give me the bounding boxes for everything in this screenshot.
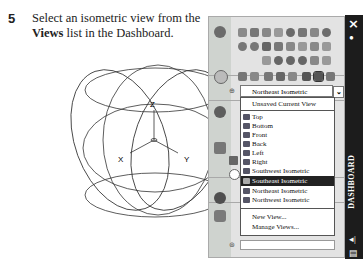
left-view-icon bbox=[243, 150, 250, 156]
dashboard-title-bar[interactable]: × ● DASHBOARD ◂| ▤ bbox=[345, 15, 363, 259]
loft-icon[interactable] bbox=[298, 42, 307, 51]
front-view-icon bbox=[243, 132, 250, 138]
zoom-icon[interactable] bbox=[250, 72, 259, 81]
presspull-icon[interactable] bbox=[310, 42, 319, 51]
menu-icon[interactable]: ▤ bbox=[349, 248, 359, 257]
views-dropdown-value: Northeast Isometric bbox=[252, 88, 307, 96]
orbit-icon[interactable] bbox=[264, 72, 273, 81]
revolve-icon[interactable] bbox=[274, 42, 283, 51]
flatshot-icon[interactable] bbox=[310, 56, 319, 65]
back-view-icon bbox=[243, 141, 250, 147]
cylinder-icon[interactable] bbox=[298, 28, 307, 37]
list-item-new-view[interactable]: New View... bbox=[241, 212, 334, 222]
views-icon[interactable] bbox=[314, 72, 323, 81]
render-panel-icon[interactable] bbox=[214, 210, 226, 222]
y-axis-label: Y bbox=[184, 155, 190, 164]
slice-icon[interactable] bbox=[262, 56, 271, 65]
union-icon[interactable] bbox=[238, 42, 247, 51]
se-iso-icon bbox=[243, 178, 250, 184]
3d-navigate-panel-icon[interactable] bbox=[214, 70, 228, 84]
views-list: Unsaved Current View Top Bottom Front Ba… bbox=[240, 97, 335, 236]
clock-icon[interactable] bbox=[229, 169, 240, 180]
close-icon[interactable]: × bbox=[348, 16, 359, 31]
thicken-icon[interactable] bbox=[286, 56, 295, 65]
autohide-icon[interactable]: ◂| bbox=[349, 234, 359, 243]
top-view-icon bbox=[243, 114, 250, 120]
walk-icon[interactable] bbox=[276, 72, 285, 81]
wireframe-sphere-drawing: Z X Y bbox=[0, 40, 210, 265]
grid-icon[interactable] bbox=[229, 156, 238, 165]
step-number: 5 bbox=[8, 11, 15, 26]
interfere-icon[interactable] bbox=[298, 56, 307, 65]
cone-solid-icon[interactable] bbox=[310, 28, 319, 37]
lights-panel-icon[interactable] bbox=[214, 106, 226, 118]
bottom-view-icon bbox=[243, 123, 250, 129]
list-item-manage-views[interactable]: Manage Views... bbox=[241, 222, 334, 232]
dashboard-title: DASHBOARD bbox=[347, 155, 361, 209]
pyramid-icon[interactable] bbox=[274, 28, 283, 37]
section-icon[interactable] bbox=[274, 56, 283, 65]
convert-icon[interactable] bbox=[322, 56, 331, 65]
sweep-icon[interactable] bbox=[286, 42, 295, 51]
ne-iso-icon bbox=[243, 188, 250, 194]
render-slider[interactable] bbox=[240, 240, 335, 250]
expand-icon[interactable]: ⊛ bbox=[229, 241, 235, 249]
expand-icon[interactable]: ⊕ bbox=[229, 87, 235, 95]
box-icon[interactable] bbox=[238, 28, 247, 37]
list-item-northwest-isometric[interactable]: Northwest Isometric bbox=[241, 195, 334, 205]
list-item-southeast-isometric[interactable]: Southeast Isometric bbox=[241, 176, 334, 186]
x-axis-label: X bbox=[118, 155, 124, 164]
views-dropdown[interactable]: Northeast Isometric ⌄ bbox=[240, 85, 333, 97]
nw-iso-icon bbox=[243, 197, 250, 203]
extrude-icon[interactable] bbox=[262, 42, 271, 51]
right-view-icon bbox=[243, 159, 250, 165]
sphere-icon[interactable] bbox=[286, 28, 295, 37]
visual-styles-panel-icon[interactable] bbox=[214, 142, 226, 154]
fly-icon[interactable] bbox=[288, 72, 297, 81]
sw-iso-icon bbox=[243, 168, 250, 174]
materials-panel-icon[interactable] bbox=[214, 192, 226, 204]
pan-icon[interactable] bbox=[238, 72, 247, 81]
torus-icon[interactable] bbox=[322, 28, 331, 37]
wedge-icon[interactable] bbox=[250, 28, 259, 37]
helix-icon[interactable] bbox=[322, 42, 331, 51]
properties-icon[interactable]: ● bbox=[349, 33, 359, 42]
3d-make-panel-icon[interactable] bbox=[214, 26, 226, 38]
z-axis-label: Z bbox=[150, 100, 155, 109]
shade-icon[interactable] bbox=[326, 72, 335, 81]
subtract-icon[interactable] bbox=[250, 42, 259, 51]
camera-icon[interactable] bbox=[302, 72, 311, 81]
list-item-southwest-isometric[interactable]: Southwest Isometric bbox=[241, 166, 334, 176]
list-item-unsaved-current-view[interactable]: Unsaved Current View bbox=[241, 99, 334, 109]
step-text: Select an isometric view from the Views … bbox=[32, 11, 222, 41]
cone-icon[interactable] bbox=[262, 28, 271, 37]
